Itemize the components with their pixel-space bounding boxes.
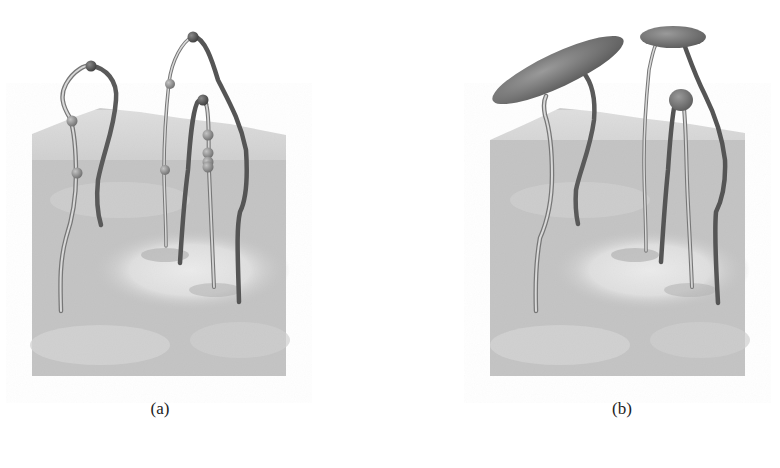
caption-a: (a) [120, 399, 200, 419]
terrain-render-b [390, 0, 780, 468]
caption-b: (b) [582, 399, 662, 419]
panel-b: (b) [390, 0, 780, 468]
panel-a: (a) [0, 0, 390, 468]
terrain-render-a [0, 0, 390, 468]
